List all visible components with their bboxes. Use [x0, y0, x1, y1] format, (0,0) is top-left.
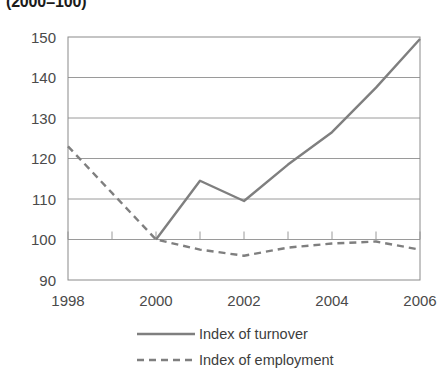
- legend-label: Index of employment: [199, 352, 334, 368]
- y-axis-label: 130: [31, 110, 56, 127]
- chart-svg: 90100110120130140150 1998200020022004200…: [0, 0, 444, 376]
- y-axis-label: 150: [31, 29, 56, 46]
- y-axis-label: 90: [39, 272, 56, 289]
- x-axis-label: 2004: [315, 292, 348, 309]
- y-axis-label: 120: [31, 150, 56, 167]
- y-axis-label: 110: [32, 191, 56, 208]
- x-axis-label: 2000: [139, 292, 172, 309]
- gridlines-group: [68, 78, 420, 240]
- series-line-index-of-turnover: [156, 39, 420, 239]
- x-axis-label: 2002: [227, 292, 260, 309]
- y-axis-label: 100: [31, 231, 56, 248]
- x-axis-label: 2006: [403, 292, 436, 309]
- data-series-group: [68, 39, 420, 256]
- y-axis-label: 140: [31, 69, 56, 86]
- y-axis-labels-group: 90100110120130140150: [31, 29, 56, 289]
- legend: Index of turnoverIndex of employment: [137, 326, 334, 368]
- legend-label: Index of turnover: [199, 326, 308, 342]
- x-tick-marks-group: [68, 232, 420, 240]
- x-axis-labels-group: 19982000200220042006: [51, 292, 436, 309]
- chart-container: (2000=100) 90100110120130140150 19982000…: [0, 0, 444, 376]
- x-axis-label: 1998: [51, 292, 84, 309]
